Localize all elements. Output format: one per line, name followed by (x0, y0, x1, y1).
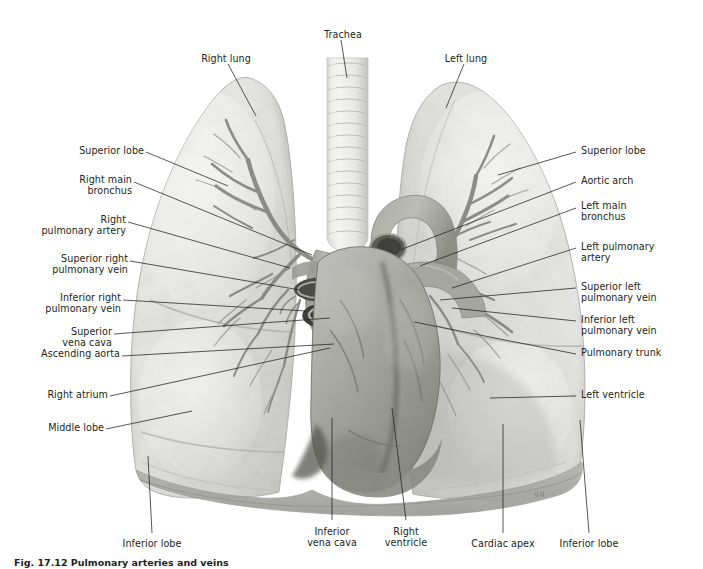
label-inferior-lobe-left: Inferior lobe (553, 538, 625, 549)
trachea-structure (327, 58, 368, 250)
label-superior-lobe-left: Superior lobe (581, 145, 701, 156)
label-middle-lobe: Middle lobe (0, 422, 104, 433)
label-superior-left-pulmonary-vein: Superior left pulmonary vein (581, 281, 701, 304)
label-right-lung: Right lung (192, 53, 260, 64)
label-trachea: Trachea (311, 29, 375, 40)
figure-caption: Fig. 17.12 Pulmonary arteries and veins (14, 557, 434, 569)
label-superior-lobe-right: Superior lobe (0, 145, 144, 156)
label-cardiac-apex: Cardiac apex (467, 538, 539, 549)
label-inferior-right-pulmonary-vein: Inferior right pulmonary vein (0, 292, 121, 315)
label-right-ventricle: Right ventricle (378, 526, 434, 549)
label-right-pulmonary-artery: Right pulmonary artery (0, 214, 126, 237)
label-aortic-arch: Aortic arch (581, 175, 701, 186)
label-right-atrium: Right atrium (0, 389, 108, 400)
label-ascending-aorta: Ascending aorta (0, 348, 120, 359)
artist-signature: V.d. (534, 490, 547, 499)
label-inferior-vena-cava: Inferior vena cava (300, 526, 364, 549)
label-right-main-bronchus: Right main bronchus (0, 174, 132, 197)
label-left-ventricle: Left ventricle (581, 389, 701, 400)
label-left-lung: Left lung (435, 53, 497, 64)
label-superior-right-pulmonary-vein: Superior right pulmonary vein (0, 253, 128, 276)
label-inferior-left-pulmonary-vein: Inferior left pulmonary vein (581, 314, 701, 337)
label-pulmonary-trunk: Pulmonary trunk (581, 347, 701, 358)
label-left-main-bronchus: Left main bronchus (581, 200, 701, 223)
anatomy-figure: V.d. (0, 0, 703, 569)
label-inferior-lobe-right: Inferior lobe (116, 538, 188, 549)
label-superior-vena-cava: Superior vena cava (0, 326, 112, 349)
label-left-pulmonary-artery: Left pulmonary artery (581, 241, 701, 264)
